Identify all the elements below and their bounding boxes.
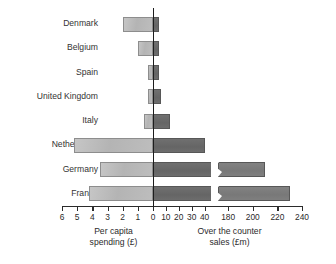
tick-right-40 — [205, 206, 206, 211]
bar-right-italy — [153, 114, 170, 129]
tick-left-4 — [92, 206, 93, 211]
tick-left-2 — [123, 206, 124, 211]
axis-break-zigzag-france — [211, 185, 222, 202]
bar-right-netherlands — [153, 138, 205, 153]
tick-label-left-5: 5 — [75, 212, 80, 222]
tick-label-right-180: 180 — [221, 212, 235, 222]
bar-left-italy — [144, 114, 153, 129]
right-axis-title-line-2: sales (£m) — [197, 237, 261, 248]
tick-label-left-3: 3 — [105, 212, 110, 222]
bar-right-segment-post-break — [218, 186, 290, 201]
tick-right-180 — [228, 206, 229, 211]
left-axis-title-line-1: Per capita — [90, 226, 138, 237]
bar-row — [62, 17, 302, 32]
tick-right-240 — [302, 206, 303, 211]
plot-area — [62, 12, 302, 206]
axis-break-zigzag-germany — [211, 161, 222, 178]
bar-row — [62, 186, 302, 201]
bar-right-segment-pre-break — [153, 162, 215, 177]
tick-right-20 — [179, 206, 180, 211]
bar-row — [62, 65, 302, 80]
tick-label-zero: 0 — [151, 212, 156, 222]
tick-left-5 — [77, 206, 78, 211]
bar-row — [62, 114, 302, 129]
right-axis-title: Over the countersales (£m) — [197, 226, 261, 248]
tick-label-right-240: 240 — [295, 212, 309, 222]
bar-row — [62, 41, 302, 56]
tick-label-right-20: 20 — [174, 212, 183, 222]
tick-left-6 — [62, 206, 63, 211]
bar-row — [62, 162, 302, 177]
left-axis-title-line-2: spending (£) — [90, 237, 138, 248]
tick-label-right-40: 40 — [200, 212, 209, 222]
tick-left-3 — [108, 206, 109, 211]
bar-left-denmark — [123, 17, 153, 32]
tick-label-right-200: 200 — [246, 212, 260, 222]
left-axis-title: Per capitaspending (£) — [90, 226, 138, 248]
tick-right-10 — [166, 206, 167, 211]
chart-container: DenmarkBelgiumSpainUnited KingdomItalyNe… — [0, 0, 336, 264]
bar-left-germany — [100, 162, 153, 177]
right-axis-title-line-1: Over the counter — [197, 226, 261, 237]
tick-label-left-2: 2 — [120, 212, 125, 222]
tick-label-right-30: 30 — [187, 212, 196, 222]
tick-label-right-220: 220 — [270, 212, 284, 222]
bar-left-netherlands — [74, 138, 153, 153]
bar-left-belgium — [138, 41, 153, 56]
tick-right-220 — [277, 206, 278, 211]
bar-row — [62, 138, 302, 153]
bar-right-segment-post-break — [218, 162, 265, 177]
tick-left-1 — [138, 206, 139, 211]
bar-row — [62, 89, 302, 104]
tick-label-left-6: 6 — [60, 212, 65, 222]
tick-right-200 — [253, 206, 254, 211]
x-axis-line — [62, 206, 302, 207]
zero-axis-line — [153, 8, 154, 207]
tick-label-left-4: 4 — [90, 212, 95, 222]
bar-left-france — [89, 186, 153, 201]
tick-label-left-1: 1 — [135, 212, 140, 222]
bar-right-segment-pre-break — [153, 186, 215, 201]
tick-right-30 — [192, 206, 193, 211]
tick-label-right-10: 10 — [161, 212, 170, 222]
